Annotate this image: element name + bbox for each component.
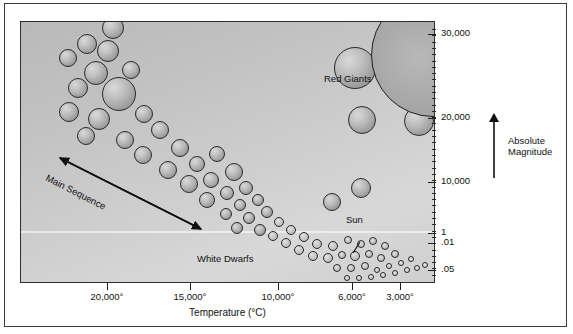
x-axis-tick-label: 3,000° xyxy=(378,292,422,303)
x-axis-tick-label: 10,000° xyxy=(256,292,300,303)
x-axis-label: Temperature (°C) xyxy=(0,307,455,318)
x-axis-tick-label: 15,000° xyxy=(168,292,212,303)
x-axis-tick-label: 20,000° xyxy=(85,292,129,303)
x-axis-tick-labels: 20,000°15,000°10,000°6,000°3,000° xyxy=(0,0,573,334)
hr-diagram-figure: Main Sequence Red Giants Sun White Dwarf… xyxy=(0,0,573,334)
x-axis-tick-label: 6,000° xyxy=(330,292,374,303)
